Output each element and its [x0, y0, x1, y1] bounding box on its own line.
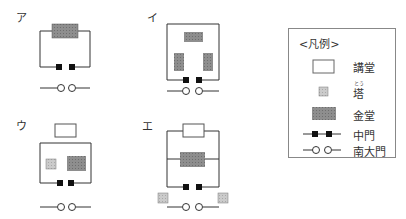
- tower-d-left: [158, 193, 168, 203]
- diagram-b: [167, 24, 219, 95]
- chumon-c-right: [68, 180, 74, 186]
- chumon-d-left: [183, 184, 189, 190]
- kondo-c: [67, 156, 86, 171]
- chumon-b-right: [196, 77, 202, 83]
- kondo-b-top: [184, 32, 203, 42]
- legend: <凡例> 講堂 とう 塔 金堂 中門 南大門: [288, 28, 396, 158]
- chumon-a-right: [69, 64, 75, 70]
- diagram-c: [40, 124, 91, 211]
- diagram-a: [40, 24, 90, 92]
- diagram-label-c: ウ: [16, 117, 27, 133]
- tower-c: [46, 159, 56, 169]
- chumon-a-left: [56, 64, 62, 70]
- legend-label-kondo: 金堂: [353, 107, 375, 123]
- legend-label-kodo: 講堂: [353, 59, 375, 75]
- kondo-d: [180, 152, 205, 167]
- legend-label-nandaimon: 南大門: [353, 143, 386, 159]
- chumon-c-left: [57, 180, 63, 186]
- diagram-label-b: イ: [147, 9, 158, 25]
- kondo-b-right: [203, 53, 213, 71]
- tower-d-right: [218, 193, 228, 203]
- kondo-a: [52, 24, 78, 38]
- diagram-d: [158, 124, 228, 211]
- chumon-b-left: [183, 77, 189, 83]
- diagram-label-a: ア: [16, 9, 27, 25]
- kondo-b-left: [174, 53, 184, 71]
- legend-nandaimon-symbol: [289, 29, 395, 157]
- legend-label-chumon: 中門: [353, 127, 375, 143]
- legend-label-tower: 塔: [353, 85, 364, 101]
- diagram-label-d: エ: [142, 117, 153, 133]
- kodo-c: [55, 124, 76, 137]
- kodo-d: [183, 124, 204, 137]
- chumon-d-right: [196, 184, 202, 190]
